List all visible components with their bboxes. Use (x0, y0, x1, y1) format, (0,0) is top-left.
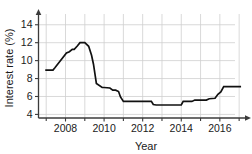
x-axis-arrowhead (245, 115, 251, 121)
axis-lines (36, 9, 251, 121)
y-tick-label: 10 (21, 54, 33, 66)
data-series-line (45, 43, 241, 105)
chart-canvas: 468101214 20082010201220142016 Interest … (0, 0, 252, 154)
x-tick-label: 2014 (170, 122, 194, 134)
interest-rate-line-chart: 468101214 20082010201220142016 Interest … (0, 0, 252, 154)
x-tick-label: 2008 (54, 122, 78, 134)
y-tick-label: 6 (27, 90, 33, 102)
data-series (45, 43, 241, 105)
y-tick-label: 4 (27, 108, 33, 120)
grid-lines (39, 14, 240, 118)
y-tick-label: 14 (21, 18, 33, 30)
x-axis-title: Year (135, 140, 158, 152)
y-tick-label: 12 (21, 36, 33, 48)
y-tick-label: 8 (27, 72, 33, 84)
x-tick-label: 2010 (92, 122, 116, 134)
y-axis-title: Interest rate (%) (3, 29, 15, 108)
x-axis-ticks: 20082010201220142016 (46, 118, 239, 134)
y-axis-arrowhead (36, 9, 42, 15)
y-axis-ticks: 468101214 (21, 18, 39, 120)
x-tick-label: 2012 (131, 122, 155, 134)
x-tick-label: 2016 (208, 122, 232, 134)
